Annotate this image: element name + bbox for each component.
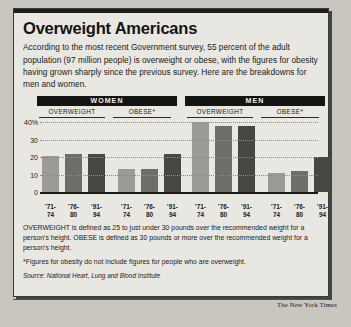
- x-axis-labels: '71-74'76-80'91-94'71-74'76-80'91-94'71-…: [23, 203, 319, 220]
- bar: [88, 154, 105, 193]
- gridline: [40, 157, 318, 158]
- subheader-men-obese: OBESE*: [261, 108, 319, 118]
- subheader-men-overweight: OVERWEIGHT: [187, 108, 253, 118]
- axis-baseline: [40, 192, 318, 194]
- x-axis-tick-label: '91-94: [310, 203, 336, 219]
- subheader-women-overweight: OVERWEIGHT: [39, 108, 105, 118]
- bar: [238, 126, 255, 193]
- group-header-women: WOMEN: [37, 96, 177, 106]
- subheader-row: OVERWEIGHT OBESE* OVERWEIGHT OBESE*: [37, 107, 319, 120]
- gridline: [40, 175, 318, 176]
- infographic-inner: Overweight Americans According to the mo…: [14, 13, 328, 296]
- bar: [215, 126, 232, 193]
- intro-paragraph: According to the most recent Government …: [23, 41, 319, 90]
- bar: [164, 154, 181, 193]
- x-axis-tick-label: '91-94: [234, 203, 260, 219]
- bar: [118, 169, 135, 192]
- infographic-box: Overweight Americans According to the mo…: [13, 8, 329, 297]
- group-header-men: MEN: [185, 96, 325, 106]
- group-header-row: WOMEN MEN: [37, 96, 319, 106]
- gridline: [40, 122, 318, 123]
- y-axis-tick: 40%: [24, 119, 38, 126]
- credit-rule: [13, 299, 329, 300]
- nyt-credit: The New York Times: [277, 301, 337, 308]
- obesity-footnote: *Figures for obesity do not include figu…: [23, 257, 319, 267]
- definition-note: OVERWEIGHT is defined as 25 to just unde…: [23, 223, 319, 252]
- page-title: Overweight Americans: [23, 20, 319, 37]
- y-axis: 010203040%: [23, 122, 39, 192]
- y-axis-tick: 0: [34, 189, 38, 196]
- nyt-infographic-page: Overweight Americans According to the mo…: [0, 0, 351, 327]
- bar: [268, 173, 285, 192]
- subheader-women-obese: OBESE*: [113, 108, 171, 118]
- y-axis-tick: 10: [30, 171, 38, 178]
- bar: [65, 154, 82, 192]
- bar: [141, 169, 158, 192]
- y-axis-tick: 20: [30, 154, 38, 161]
- y-axis-tick: 30: [30, 136, 38, 143]
- source-line: Source: National Heart, Lung and Blood I…: [23, 272, 319, 279]
- bar-chart: 010203040%: [23, 122, 319, 202]
- x-axis-tick-label: '91-94: [84, 203, 110, 219]
- gridline: [40, 140, 318, 141]
- x-axis-tick-label: '91-94: [160, 203, 186, 219]
